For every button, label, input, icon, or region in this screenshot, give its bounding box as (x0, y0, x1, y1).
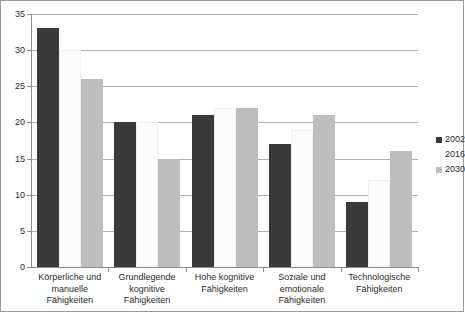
legend-item-2002[interactable]: 2002 (421, 132, 465, 147)
gridline-0 (31, 267, 418, 268)
bar-2030 (158, 159, 180, 267)
y-axis-tick-label: 0 (3, 263, 25, 272)
bar-group (269, 14, 335, 267)
legend-item-2030[interactable]: 2030 (421, 162, 465, 177)
category-tick (341, 267, 342, 272)
bar-group (192, 14, 258, 267)
x-axis-label-line: Soziale und (263, 272, 340, 284)
bar-2030 (81, 79, 103, 267)
y-tick-10 (27, 195, 32, 196)
y-axis-tick-label: 25 (3, 82, 25, 91)
y-axis-tick-label: 15 (3, 155, 25, 164)
legend-label: 2016 (445, 150, 465, 159)
bar-2002 (37, 28, 59, 267)
chart-legend: 200220162030 (421, 132, 465, 177)
bar-group (37, 14, 103, 267)
bar-2002 (114, 122, 136, 267)
x-axis-label-line: Körperliche und (31, 272, 108, 284)
x-axis-category-label: TechnologischeFähigkeiten (341, 272, 418, 295)
bar-2016 (59, 50, 81, 267)
bar-2016 (291, 130, 313, 267)
bar-2030 (390, 151, 412, 267)
x-axis-label-line: emotionale (263, 284, 340, 296)
x-axis-category-label: Hohe kognitiveFähigkeiten (186, 272, 263, 295)
y-tick-30 (27, 50, 32, 51)
x-axis-labels: Körperliche undmanuelleFähigkeitenGrundl… (31, 272, 418, 312)
legend-swatch-2030 (436, 167, 442, 173)
legend-swatch-2016 (436, 152, 442, 158)
x-axis-label-line: Technologische (341, 272, 418, 284)
legend-label: 2030 (445, 165, 465, 174)
category-tick (263, 267, 264, 272)
legend-swatch-2002 (436, 137, 442, 143)
bar-2002 (346, 202, 368, 267)
legend-label: 2002 (445, 135, 465, 144)
y-axis-tick-label: 35 (3, 10, 25, 19)
x-axis-label-line: Fähigkeiten (263, 295, 340, 307)
y-axis-tick-label: 10 (3, 191, 25, 200)
category-tick (108, 267, 109, 272)
x-axis-label-line: Fähigkeiten (108, 295, 185, 307)
y-tick-20 (27, 122, 32, 123)
x-axis-category-label: Körperliche undmanuelleFähigkeiten (31, 272, 108, 307)
x-axis-label-line: Grundlegende (108, 272, 185, 284)
bar-2030 (313, 115, 335, 267)
x-axis-category-label: GrundlegendekognitiveFähigkeiten (108, 272, 185, 307)
y-axis-tick-label: 20 (3, 118, 25, 127)
y-tick-25 (27, 86, 32, 87)
x-axis-label-line: Fähigkeiten (31, 295, 108, 307)
y-tick-35 (27, 14, 32, 15)
legend-item-2016[interactable]: 2016 (421, 147, 465, 162)
plot-area (31, 14, 418, 267)
y-axis-labels: 05101520253035 (1, 1, 25, 312)
y-tick-15 (27, 159, 32, 160)
category-tick (186, 267, 187, 272)
x-axis-category-label: Soziale undemotionaleFähigkeiten (263, 272, 340, 307)
bar-2016 (136, 122, 158, 267)
bar-2016 (368, 180, 390, 267)
x-axis-label-line: kognitive (108, 284, 185, 296)
bar-group (114, 14, 180, 267)
y-tick-5 (27, 231, 32, 232)
y-axis-tick-label: 30 (3, 46, 25, 55)
x-axis-label-line: Hohe kognitive (186, 272, 263, 284)
bar-2016 (214, 108, 236, 267)
x-axis-label-line: Fähigkeiten (341, 284, 418, 296)
y-axis-tick-label: 5 (3, 227, 25, 236)
bar-2002 (269, 144, 291, 267)
category-tick (418, 267, 419, 272)
bar-2030 (236, 108, 258, 267)
x-axis-label-line: Fähigkeiten (186, 284, 263, 296)
x-axis-label-line: manuelle (31, 284, 108, 296)
bar-group (346, 14, 412, 267)
y-tick-0 (27, 267, 32, 268)
bar-2002 (192, 115, 214, 267)
